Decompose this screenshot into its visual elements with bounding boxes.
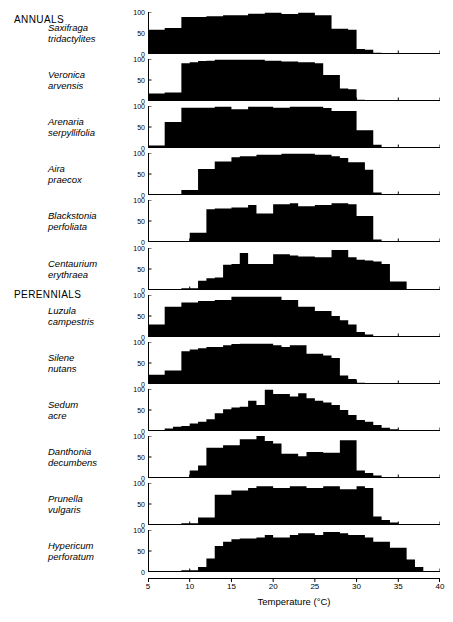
- species-label-line: serpyllifolia: [48, 127, 140, 138]
- y-tick-label: 100: [129, 150, 145, 157]
- y-tick-label: 100: [129, 244, 145, 251]
- histogram-bars: [148, 204, 440, 243]
- species-label: Luzulacampestris: [48, 305, 140, 327]
- histogram-plot: [148, 153, 440, 195]
- y-tick-label: 100: [129, 291, 145, 298]
- x-tick-label: 40: [436, 582, 445, 591]
- species-label: Saxifragatridactylites: [48, 22, 140, 44]
- y-tick-label: 100: [129, 9, 145, 16]
- chart-panel: Blackstoniaperfoliata: [148, 200, 440, 242]
- histogram-bars: [148, 343, 440, 383]
- histogram-bars: [148, 296, 440, 336]
- x-tick-label: 35: [394, 582, 403, 591]
- histogram-bars: [148, 436, 440, 478]
- species-label-line: Veronica: [48, 69, 140, 80]
- x-tick-label: 30: [352, 582, 361, 591]
- chart-panel: Arenariaserpyllifolia: [148, 106, 440, 148]
- species-label: Arenariaserpyllifolia: [48, 116, 140, 138]
- species-label-line: decumbens: [48, 457, 140, 468]
- y-tick-label: 100: [129, 527, 145, 534]
- y-tick-label: 0: [129, 569, 145, 576]
- chart-panel: Prunellavulgaris: [148, 483, 440, 525]
- y-tick-label: 100: [129, 103, 145, 110]
- species-label-line: Danthonia: [48, 446, 140, 457]
- species-label-line: praecox: [48, 174, 140, 185]
- histogram-bars: [148, 390, 440, 431]
- species-label-line: Prunella: [48, 493, 140, 504]
- species-label-line: Silene: [48, 352, 140, 363]
- chart-panel: Hypericumperforatum: [148, 530, 440, 572]
- chart-panel: Silenenutans: [148, 342, 440, 384]
- species-label: Centauriumerythraea: [48, 258, 140, 280]
- chart-panel: Danthoniadecumbens: [148, 436, 440, 478]
- species-label-line: Centaurium: [48, 258, 140, 269]
- y-tick-label: 100: [129, 197, 145, 204]
- species-label-line: Aira: [48, 163, 140, 174]
- species-label: Silenenutans: [48, 352, 140, 374]
- species-label-line: arvensis: [48, 80, 140, 91]
- species-label: Airapraecox: [48, 163, 140, 185]
- histogram-plot: [148, 483, 440, 525]
- species-label: Veronicaarvensis: [48, 69, 140, 91]
- x-tick-label: 10: [185, 582, 194, 591]
- species-label: Blackstoniaperfoliata: [48, 210, 140, 232]
- species-label-line: Hypericum: [48, 540, 140, 551]
- species-label-line: Luzula: [48, 305, 140, 316]
- x-tick-label: 20: [269, 582, 278, 591]
- histogram-bars: [148, 486, 440, 525]
- chart-panel: Centauriumerythraea: [148, 248, 440, 290]
- histogram-plot: [148, 106, 440, 148]
- chart-panel: Saxifragatridactylites: [148, 12, 440, 54]
- species-label-line: vulgaris: [48, 504, 140, 515]
- species-label: Hypericumperforatum: [48, 540, 140, 562]
- histogram-plot: [148, 59, 440, 101]
- species-label-line: Arenaria: [48, 116, 140, 127]
- chart-panel: Airapraecox: [148, 153, 440, 195]
- histogram-bars: [148, 250, 440, 290]
- x-tick-label: 25: [310, 582, 319, 591]
- histogram-bars: [148, 154, 440, 195]
- histogram-plot: [148, 248, 440, 290]
- species-label-line: erythraea: [48, 269, 140, 280]
- chart-panel: Veronicaarvensis: [148, 59, 440, 101]
- group-heading-perennials: PERENNIALS: [14, 289, 81, 300]
- y-tick-label: 100: [129, 480, 145, 487]
- species-label: Sedumacre: [48, 399, 140, 421]
- germination-temperature-figure: ANNUALS050100Saxifragatridactylites05010…: [0, 0, 453, 622]
- histogram-plot: [148, 530, 440, 572]
- species-label-line: Saxifraga: [48, 22, 140, 33]
- histogram-plot: [148, 436, 440, 478]
- species-label-line: Sedum: [48, 399, 140, 410]
- x-tick-label: 5: [146, 582, 150, 591]
- chart-panel: Sedumacre: [148, 389, 440, 431]
- histogram-plot: [148, 200, 440, 242]
- x-axis-title: Temperature (°C): [148, 596, 440, 607]
- species-label-line: perforatum: [48, 551, 140, 562]
- histogram-plot: [148, 342, 440, 384]
- histogram-plot: [148, 295, 440, 337]
- y-tick-label: 100: [129, 385, 145, 392]
- species-label-line: acre: [48, 410, 140, 421]
- histogram-plot: [148, 12, 440, 54]
- y-tick-label: 100: [129, 432, 145, 439]
- species-label-line: nutans: [48, 363, 140, 374]
- species-label-line: tridactylites: [48, 33, 140, 44]
- histogram-bars: [148, 13, 440, 54]
- histogram-plot: [148, 389, 440, 431]
- species-label-line: campestris: [48, 316, 140, 327]
- y-tick-label: 100: [129, 56, 145, 63]
- histogram-bars: [148, 60, 440, 101]
- histogram-bars: [148, 532, 440, 572]
- histogram-bars: [148, 107, 440, 148]
- species-label: Prunellavulgaris: [48, 493, 140, 515]
- species-label-line: perfoliata: [48, 221, 140, 232]
- x-tick-label: 15: [227, 582, 236, 591]
- chart-panel: Luzulacampestris: [148, 295, 440, 337]
- y-tick-label: 100: [129, 338, 145, 345]
- species-label-line: Blackstonia: [48, 210, 140, 221]
- species-label: Danthoniadecumbens: [48, 446, 140, 468]
